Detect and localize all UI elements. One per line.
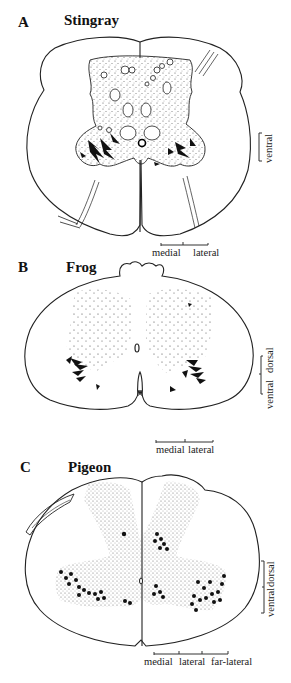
- pigeon-gray-matter: [56, 482, 227, 612]
- frog-cord-section: [25, 262, 253, 410]
- scale-label-medial: medial: [156, 444, 185, 455]
- frog-gray-matter: [66, 289, 213, 392]
- scale-label-ventral: ventral: [263, 134, 274, 163]
- scale-label-far-lateral: far-lateral: [211, 656, 252, 667]
- scale-label-lateral: lateral: [193, 247, 219, 258]
- stingray-gray-matter: [76, 56, 205, 166]
- scale-label-dorsal: dorsal: [265, 561, 276, 587]
- panel-letter-b: B: [18, 259, 28, 276]
- scale-label-medial: medial: [144, 656, 173, 667]
- scale-label-dorsal: dorsal: [264, 347, 275, 373]
- scale-label-medial: medial: [152, 247, 181, 258]
- scale-label-ventral: ventral: [264, 380, 275, 409]
- panel-letter-c: C: [20, 459, 31, 476]
- panel-title-pigeon: Pigeon: [68, 459, 111, 476]
- figure-drawings: [0, 0, 291, 683]
- scale-label-lateral: lateral: [179, 656, 205, 667]
- scale-label-ventral: ventral: [265, 588, 276, 617]
- panel-title-frog: Frog: [66, 259, 97, 276]
- panel-letter-a: A: [18, 14, 29, 31]
- panel-title-stingray: Stingray: [64, 12, 119, 29]
- scale-label-lateral: lateral: [188, 444, 214, 455]
